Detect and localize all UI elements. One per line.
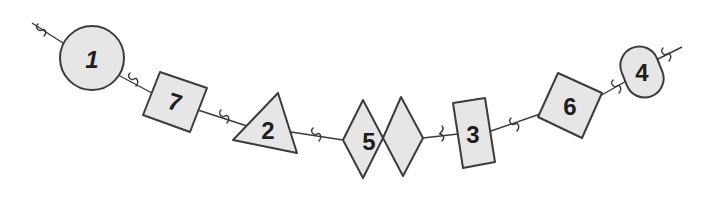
string-segment — [118, 75, 152, 93]
shape-label: 1 — [85, 46, 98, 73]
shape-circle: 1 — [60, 26, 124, 90]
shape-square-7: 7 — [143, 72, 207, 132]
shape-label: 3 — [466, 121, 479, 148]
twist-connector-icon — [312, 128, 321, 141]
shape-label: 6 — [563, 93, 576, 120]
string-segment — [600, 80, 628, 96]
shape-square-6: 6 — [538, 73, 602, 138]
shape-label: 2 — [261, 117, 274, 144]
twist-connector-icon — [662, 48, 671, 61]
shape-label: 5 — [362, 128, 375, 155]
twist-connector-icon — [37, 24, 46, 36]
shape-string-diagram: 1 7 2 5 3 6 4 — [0, 0, 726, 199]
shape-label: 4 — [635, 59, 649, 86]
diamond-shape-right — [383, 97, 423, 176]
shape-triangle: 2 — [233, 93, 297, 153]
string-segment — [491, 114, 540, 131]
twist-connector-icon — [440, 126, 444, 141]
shape-double-diamond: 5 — [343, 97, 423, 178]
shape-rectangle: 3 — [453, 98, 495, 168]
twist-connector-icon — [220, 110, 229, 123]
string-segment — [198, 110, 250, 127]
twist-connector-icon — [612, 80, 621, 93]
